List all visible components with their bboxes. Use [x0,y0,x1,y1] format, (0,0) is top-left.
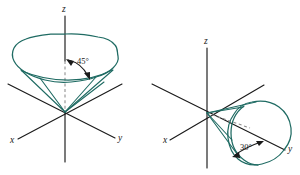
right-y-axis-label: y [287,144,293,154]
left-y-axis [8,84,115,138]
left-cone-line-left [21,70,65,112]
coordinate-systems-figure: 45° z x y [0,0,300,175]
left-x-axis [18,84,122,139]
left-angle-arrow-head-top [66,59,74,66]
left-z-axis-label: z [61,4,66,14]
figure-container: 45° z x y [0,0,300,175]
left-x-axis-label: x [9,135,15,145]
left-panel: 45° z x y [8,4,123,162]
right-z-axis-label: z [203,36,208,46]
left-curve-base-chord [22,70,112,80]
right-x-axis-label: x [162,135,168,145]
left-y-axis-label: y [117,133,123,143]
right-x-axis [170,85,264,140]
right-panel: 30° z x y [152,36,293,168]
left-angle-label: 45° [77,56,89,66]
right-angle-label: 30° [240,142,252,152]
